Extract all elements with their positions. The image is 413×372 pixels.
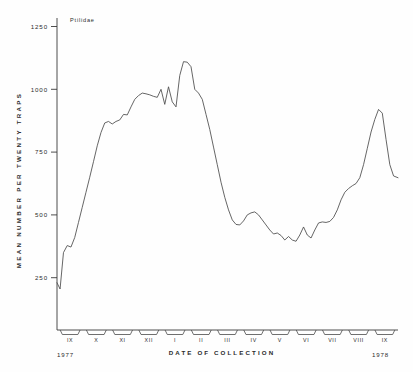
month-bracket-iv [244,330,264,335]
x-tick-label-iv-7: IV [251,337,257,343]
x-tick-label-iii-6: III [224,337,231,343]
month-bracket-ix [375,330,395,335]
chart-plot-area: 1250 1000 750 500 250 MEAN NUMBER PER TW… [0,0,413,372]
x-tick-label-vi-9: VI [303,337,309,343]
x-axis-year-start: 1977 [57,351,74,358]
y-tick-label-250: 250 [35,274,48,281]
month-bracket-i [165,330,185,335]
x-axis-year-end: 1978 [372,351,389,358]
figure-container: 1250 1000 750 500 250 MEAN NUMBER PER TW… [0,0,413,372]
month-bracket-x [86,330,106,335]
x-tick-label-ii-5: II [199,337,203,343]
month-bracket-vi [296,330,316,335]
month-bracket-v [270,330,290,335]
x-axis-tick-labels: IXXXIXIIIIIIIIIVVVIVIIVIIIIX [67,337,388,343]
y-tick-label-500: 500 [35,211,48,218]
month-bracket-vii [322,330,342,335]
month-bracket-xi [113,330,133,335]
month-bracket-ix [60,330,80,335]
series-label-ptilidae: Ptilidae [70,17,95,23]
month-bracket-viii [349,330,369,335]
x-tick-label-xi-2: XI [119,337,125,343]
x-tick-label-viii-11: VIII [353,337,364,343]
x-axis-month-brackets [60,330,395,335]
x-tick-label-vii-10: VII [328,337,337,343]
month-bracket-iii [218,330,238,335]
y-axis-title: MEAN NUMBER PER TWENTY TRAPS [15,92,22,268]
x-tick-label-ix-12: IX [382,337,388,343]
month-bracket-xii [139,330,159,335]
x-tick-label-xii-3: XII [145,337,154,343]
y-axis-tick-labels: 1250 1000 750 500 250 [31,23,48,281]
x-tick-label-ix-0: IX [67,337,73,343]
x-axis-title: DATE OF COLLECTION [169,349,275,356]
month-bracket-ii [191,330,211,335]
y-axis-ticks [51,27,57,278]
x-tick-label-i-4: I [174,337,176,343]
x-tick-label-x-1: X [94,337,98,343]
x-tick-label-v-8: V [278,337,282,343]
y-tick-label-1250: 1250 [31,23,48,30]
y-tick-label-750: 750 [35,148,48,155]
y-tick-label-1000: 1000 [31,86,48,93]
series-line-ptilidae [57,62,398,289]
